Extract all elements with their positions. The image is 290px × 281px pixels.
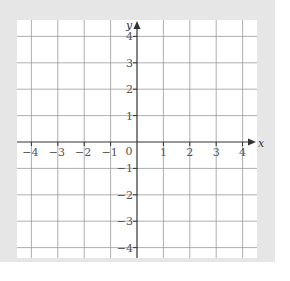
x-tick-label: −4 — [22, 146, 38, 159]
y-tick-label: −1 — [117, 162, 133, 175]
coordinate-plane: −4−3−2−11234 4321−1−2−3−4 x y 0 — [0, 0, 290, 281]
x-tick-label: −2 — [75, 146, 91, 159]
y-tick-label: −2 — [117, 189, 133, 202]
x-axis-ticks: −4−3−2−11234 — [22, 142, 246, 159]
x-tick-label: 2 — [186, 146, 193, 159]
x-tick-label: 4 — [239, 146, 246, 159]
y-tick-label: 4 — [126, 30, 133, 43]
y-tick-label: −4 — [117, 242, 133, 255]
origin-label: 0 — [126, 145, 133, 158]
figure: −4−3−2−11234 4321−1−2−3−4 x y 0 — [0, 0, 290, 281]
axes — [17, 21, 256, 258]
x-tick-label: 1 — [160, 146, 167, 159]
y-tick-label: 2 — [126, 83, 133, 96]
y-tick-label: 1 — [126, 110, 133, 123]
y-axis-arrow-icon — [134, 21, 141, 29]
x-tick-label: −1 — [101, 146, 117, 159]
y-tick-label: 3 — [126, 57, 133, 70]
x-axis-label: x — [258, 137, 265, 150]
y-axis-label: y — [125, 19, 133, 32]
x-tick-label: 3 — [213, 146, 220, 159]
x-tick-label: −3 — [49, 146, 65, 159]
x-axis-arrow-icon — [248, 139, 256, 146]
y-tick-label: −3 — [117, 215, 133, 228]
